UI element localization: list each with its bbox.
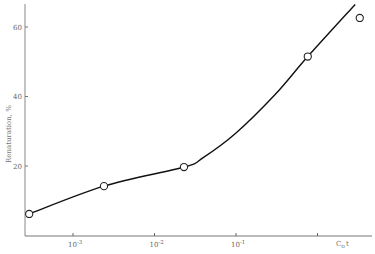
x-tick-label: 10-1 — [231, 239, 245, 249]
x-axis-title: Cot — [336, 240, 349, 249]
y-tick-label: 20 — [13, 163, 22, 171]
data-markers — [26, 14, 364, 217]
y-ticks: 204060 — [13, 24, 28, 171]
y-tick-label: 60 — [13, 24, 22, 32]
data-point-marker — [26, 210, 33, 217]
data-point-marker — [100, 183, 107, 190]
x-axis-title-tail: t — [346, 240, 349, 248]
axes — [25, 4, 372, 236]
data-point-marker — [356, 14, 363, 21]
x-ticks: 10-310-210-1 — [68, 233, 318, 249]
y-tick-label: 40 — [13, 93, 22, 101]
x-tick-label: 10-2 — [150, 239, 164, 249]
y-axis-title: Renaturation, % — [5, 105, 13, 163]
x-axis-title-sub: o — [341, 242, 345, 249]
data-point-marker — [304, 53, 311, 60]
renaturation-chart: 204060 10-310-210-1 Renaturation, % Cot — [0, 0, 375, 254]
fitted-curve-line — [29, 4, 355, 214]
data-point-marker — [180, 163, 187, 170]
x-tick-label: 10-3 — [68, 239, 83, 249]
